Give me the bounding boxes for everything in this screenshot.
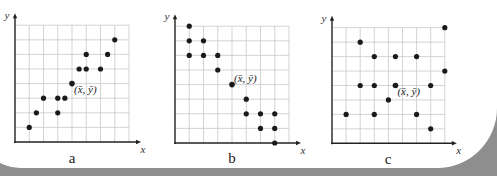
mean-point-label: (x̄, ȳ): [234, 72, 257, 85]
data-point: [62, 96, 67, 101]
data-point: [201, 53, 206, 58]
data-point: [358, 40, 363, 45]
y-axis-label: y: [321, 12, 327, 24]
data-point: [258, 111, 263, 116]
data-point: [258, 126, 263, 131]
panel-label-c: c: [385, 151, 392, 167]
data-point: [201, 38, 206, 43]
data-point: [41, 96, 46, 101]
data-point: [27, 125, 32, 130]
data-point: [372, 83, 377, 88]
mean-point-label: (x̄, ȳ): [74, 83, 97, 96]
data-point: [386, 97, 391, 102]
y-axis-label: y: [164, 10, 170, 22]
data-point: [55, 110, 60, 115]
panel-label-a: a: [69, 150, 76, 166]
y-axis-arrow-icon: [173, 14, 177, 19]
data-point: [358, 83, 363, 88]
x-axis-label: x: [455, 144, 461, 156]
data-point: [344, 112, 349, 117]
data-point: [34, 110, 39, 115]
panel-label-b: b: [228, 150, 236, 166]
y-axis-arrow-icon: [330, 16, 334, 21]
x-axis-label: x: [300, 144, 306, 156]
data-point: [84, 52, 89, 57]
data-point: [215, 53, 220, 58]
data-point: [414, 54, 419, 59]
y-axis-arrow-icon: [13, 13, 17, 18]
data-point: [428, 126, 433, 131]
y-axis-label: y: [4, 9, 10, 21]
scatter-panel-b: yx(x̄, ȳ): [164, 10, 306, 156]
data-point: [414, 112, 419, 117]
data-point: [215, 67, 220, 72]
scatter-panel-c: yx(x̄, ȳ): [321, 12, 462, 157]
data-point: [187, 38, 192, 43]
data-point: [187, 24, 192, 29]
grid-lines: [332, 28, 445, 144]
data-point: [55, 96, 60, 101]
data-point: [112, 37, 117, 42]
data-point: [272, 111, 277, 116]
data-point: [187, 53, 192, 58]
data-point: [372, 54, 377, 59]
data-point: [393, 54, 398, 59]
mean-point-label: (x̄, ȳ): [397, 85, 420, 98]
data-point: [244, 97, 249, 102]
data-point: [244, 111, 249, 116]
data-point: [442, 25, 447, 30]
data-point: [77, 66, 82, 71]
data-point: [272, 140, 277, 145]
x-axis-label: x: [140, 143, 146, 155]
data-point: [84, 66, 89, 71]
data-point: [272, 126, 277, 131]
scatter-panel-a: yx(x̄, ȳ): [4, 9, 146, 155]
data-point: [372, 112, 377, 117]
data-point: [442, 68, 447, 73]
data-point: [98, 66, 103, 71]
data-point: [105, 52, 110, 57]
data-point: [428, 83, 433, 88]
